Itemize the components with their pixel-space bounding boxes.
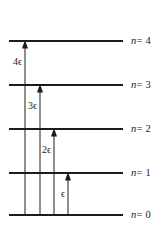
- transition-arrow-1epsilon: [65, 172, 71, 215]
- transition-arrow-2epsilon: [51, 128, 57, 215]
- energy-label-2epsilon: 2ϵ: [42, 145, 51, 155]
- energy-label-3epsilon: 3ϵ: [28, 101, 37, 111]
- level-label-n3-value: = 3: [136, 79, 150, 90]
- energy-level-diagram: n= 4 n= 3 n= 2 n= 1 n= 0 4ϵ 3ϵ 2ϵ ϵ: [0, 0, 163, 232]
- level-label-n4: n= 4: [131, 36, 151, 47]
- level-label-n2-value: = 2: [136, 123, 150, 134]
- energy-label-1epsilon: ϵ: [61, 189, 65, 199]
- level-label-n0: n= 0: [131, 210, 151, 221]
- transition-arrow-4epsilon: [22, 40, 28, 215]
- level-lines: [9, 41, 123, 215]
- level-label-n0-value: = 0: [136, 209, 150, 220]
- level-label-n1-value: = 1: [136, 167, 150, 178]
- level-label-n4-value: = 4: [136, 35, 150, 46]
- level-label-n2: n= 2: [131, 124, 151, 135]
- level-label-n3: n= 3: [131, 80, 151, 91]
- energy-label-4epsilon: 4ϵ: [13, 57, 22, 67]
- level-label-n1: n= 1: [131, 168, 151, 179]
